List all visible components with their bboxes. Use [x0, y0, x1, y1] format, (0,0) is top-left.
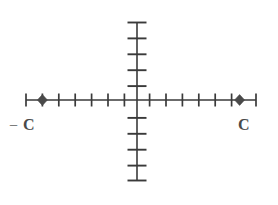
axis-label-positive-c-text: C	[238, 116, 250, 133]
axis-label-negative-c: −C	[9, 117, 35, 134]
minus-sign-glyph: −	[9, 118, 18, 134]
axis-label-negative-c-text: C	[23, 116, 35, 133]
x-axis-group	[26, 94, 256, 107]
figure-canvas: −C C	[0, 0, 278, 205]
point-marker-positive-c	[235, 95, 245, 106]
coordinate-axes-diagram	[0, 0, 278, 205]
point-marker-negative-c	[37, 95, 47, 106]
y-axis-group	[128, 22, 147, 181]
axis-label-positive-c: C	[238, 117, 250, 133]
